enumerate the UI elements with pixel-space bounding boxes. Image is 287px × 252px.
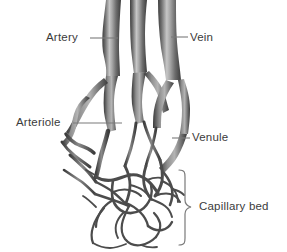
venule-branch (159, 133, 187, 173)
blood-vessel-diagram: Artery Vein Arteriole Venule Capillary b… (0, 0, 287, 252)
vessel-branch-group (62, 71, 190, 173)
middle-trunk (130, 0, 147, 74)
capillary-loop-15 (172, 189, 184, 195)
arteriole-wave-6 (125, 123, 136, 166)
middle-branch-main (132, 72, 146, 124)
capillary-loop-6 (154, 213, 160, 237)
capillary-loop-7 (92, 208, 105, 243)
label-capillary-bed: Capillary bed (199, 201, 269, 213)
capillary-loop-14 (147, 178, 162, 180)
brace-path (179, 170, 191, 245)
label-arteriole: Arteriole (16, 117, 61, 129)
arteriole-group (62, 122, 160, 194)
vessel-trunk-group (102, 0, 181, 80)
arteriole-wave-1 (96, 131, 108, 177)
vein-trunk (158, 0, 181, 80)
capillary-loop-8 (96, 200, 113, 227)
capillary-loop-19 (83, 196, 96, 207)
vein-branch-right (178, 79, 190, 134)
capillary-loop-17 (141, 245, 157, 247)
label-vein: Vein (190, 32, 213, 44)
capillary-loop-18 (93, 243, 126, 248)
capillary-bed-brace (179, 170, 191, 245)
label-artery: Artery (46, 32, 78, 44)
label-venule: Venule (192, 132, 228, 144)
